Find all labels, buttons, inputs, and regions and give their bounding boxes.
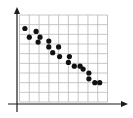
x-axis-arrow-icon bbox=[121, 101, 128, 107]
scatter-chart bbox=[0, 0, 133, 118]
data-point bbox=[86, 70, 91, 75]
data-point bbox=[34, 29, 39, 34]
data-point bbox=[56, 44, 61, 49]
data-point bbox=[92, 80, 97, 85]
data-point bbox=[66, 60, 71, 65]
data-point bbox=[67, 54, 72, 59]
data-point bbox=[57, 54, 62, 59]
data-points bbox=[22, 26, 102, 85]
data-point bbox=[27, 35, 32, 40]
data-point bbox=[36, 40, 41, 45]
data-point bbox=[50, 50, 55, 55]
data-point bbox=[22, 26, 27, 31]
grid-lines bbox=[20, 15, 108, 102]
data-point bbox=[46, 39, 51, 44]
data-point bbox=[72, 64, 77, 69]
y-axis-arrow-icon bbox=[14, 7, 20, 14]
data-point bbox=[86, 76, 91, 81]
data-point bbox=[46, 44, 51, 49]
data-point bbox=[37, 35, 42, 40]
data-point bbox=[97, 80, 102, 85]
data-point bbox=[81, 67, 86, 72]
